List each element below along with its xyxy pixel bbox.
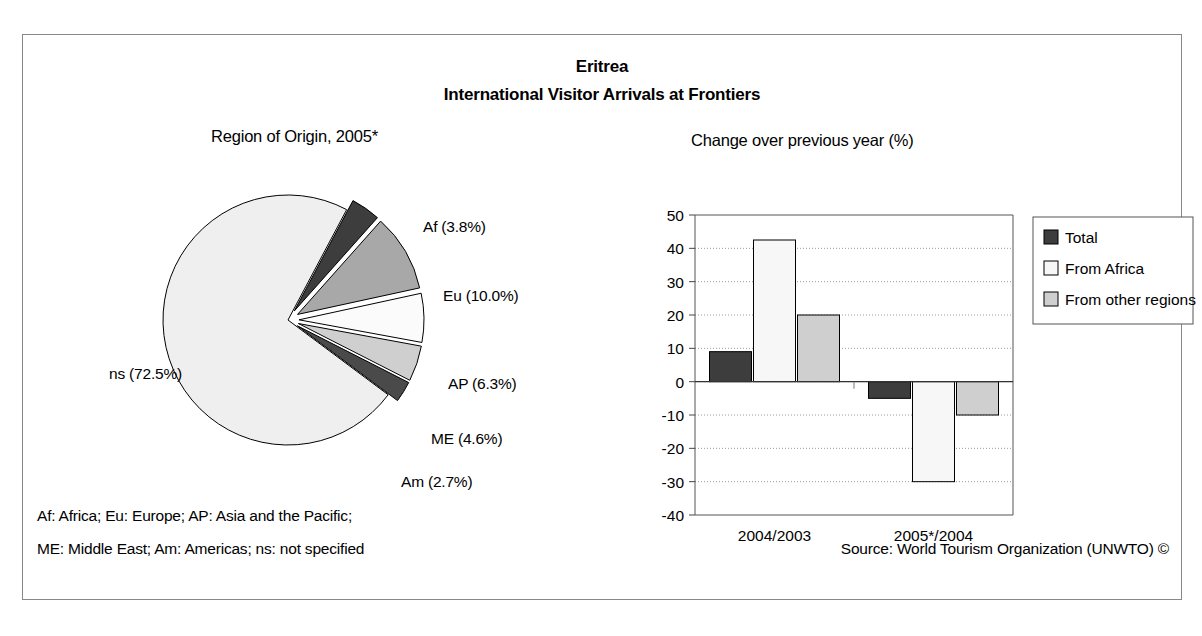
bar-20042003-total [710, 352, 752, 382]
legend-label-from-africa: From Africa [1065, 260, 1145, 277]
y-axis-tick-label: 20 [667, 307, 685, 324]
y-axis-tick-label: -40 [662, 507, 685, 524]
bar-20052004-from-africa [913, 382, 955, 482]
pie-label-am: Am (2.7%) [401, 473, 472, 491]
x-axis-category-label: 2004/2003 [738, 527, 811, 544]
pie-label-ap: AP (6.3%) [448, 375, 517, 393]
y-axis-tick-label: 0 [675, 374, 684, 391]
bar-chart-title: Change over previous year (%) [691, 131, 914, 150]
pie-chart-svg [23, 155, 603, 495]
bar-chart-panel: 50403020100-10-20-30-402004/20032005*/20… [623, 165, 1202, 585]
bar-20042003-from-other-regions [798, 315, 840, 382]
legend-label-total: Total [1065, 229, 1098, 246]
bar-chart-svg: 50403020100-10-20-30-402004/20032005*/20… [623, 165, 1202, 585]
legend-swatch-from-other-regions [1044, 292, 1058, 306]
y-axis-tick-label: 40 [667, 240, 685, 257]
y-axis-tick-label: 50 [667, 207, 685, 224]
figure-frame: Eritrea International Visitor Arrivals a… [22, 34, 1182, 600]
legend-swatch-total [1044, 230, 1058, 244]
y-axis-tick-label: 30 [667, 274, 685, 291]
y-axis-tick-label: -30 [662, 474, 685, 491]
y-axis-tick-label: 10 [667, 340, 685, 357]
pie-chart-panel: Af (3.8%) Eu (10.0%) AP (6.3%) ME (4.6%)… [23, 155, 603, 495]
legend-label-from-other-regions: From other regions [1065, 291, 1196, 308]
pie-label-ns: ns (72.5%) [109, 365, 182, 383]
pie-label-me: ME (4.6%) [431, 430, 502, 448]
bar-20042003-from-africa [754, 240, 796, 382]
pie-chart-title: Region of Origin, 2005* [211, 127, 378, 146]
pie-label-af: Af (3.8%) [423, 218, 486, 236]
source-attribution: Source: World Tourism Organization (UNWT… [841, 540, 1169, 558]
figure-country-title: Eritrea [23, 57, 1181, 77]
footnote-abbreviations-line-1: Af: Africa; Eu: Europe; AP: Asia and the… [37, 507, 352, 525]
bar-20052004-from-other-regions [957, 382, 999, 415]
bar-20052004-total [869, 382, 911, 399]
figure-main-title: International Visitor Arrivals at Fronti… [23, 85, 1181, 105]
pie-label-eu: Eu (10.0%) [443, 287, 519, 305]
footnote-abbreviations-line-2: ME: Middle East; Am: Americas; ns: not s… [37, 540, 364, 558]
y-axis-tick-label: -10 [662, 407, 685, 424]
y-axis-tick-label: -20 [662, 440, 685, 457]
legend-swatch-from-africa [1044, 261, 1058, 275]
